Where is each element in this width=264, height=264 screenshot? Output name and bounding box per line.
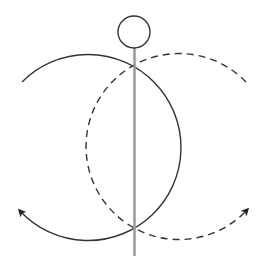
- solid-rotation-arc: [20, 55, 181, 241]
- rotation-diagram: [0, 0, 264, 264]
- diagram-canvas: [0, 0, 264, 264]
- dashed-rotation-arc: [86, 54, 247, 240]
- pivot-ball: [118, 16, 150, 48]
